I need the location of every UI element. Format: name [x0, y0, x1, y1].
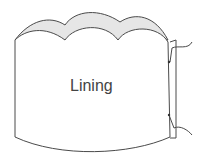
bottom-tie-string: [169, 115, 192, 135]
bottom-tie-knot: [168, 114, 170, 116]
top-tie-knot: [168, 61, 170, 63]
lining-label: Lining: [70, 77, 113, 95]
top-tie-string: [170, 42, 192, 62]
